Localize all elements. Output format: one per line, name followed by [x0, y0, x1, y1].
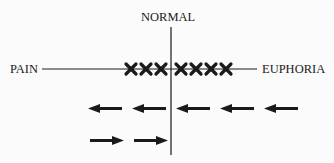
arrow-left-icon — [88, 104, 122, 113]
arrow-right-icon — [134, 136, 168, 145]
arrow-left-icon — [176, 104, 210, 113]
arrow-left-icon — [220, 104, 254, 113]
diagram-canvas: NORMAL PAIN EUPHORIA — [0, 0, 334, 163]
right-arrows-row — [90, 136, 168, 145]
diagram-graphics — [0, 0, 334, 163]
arrow-left-icon — [132, 104, 166, 113]
arrow-left-icon — [264, 104, 298, 113]
left-arrows-row — [88, 104, 298, 113]
arrow-right-icon — [90, 136, 124, 145]
